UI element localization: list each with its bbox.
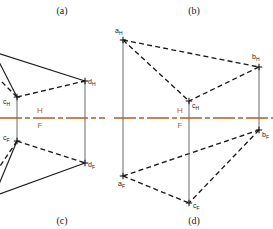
plane-label-f-right: F (178, 121, 183, 130)
figure-left-group: cHdHcFdF (0, 52, 96, 196)
point-label-c_H: cH (192, 102, 200, 111)
point-label-d_H: dH (88, 78, 96, 87)
figure-right-group: aHbHcHaFbFcF (115, 27, 269, 211)
caption-d: (d) (188, 215, 200, 227)
point-marker-right-c_F (186, 200, 192, 206)
edge-bf-cf-dashed (189, 130, 259, 203)
point-label-c_F: cF (193, 202, 200, 211)
point-marker-right-a_F (120, 173, 126, 179)
plane-label-f-left: F (38, 121, 43, 130)
caption-c: (c) (56, 215, 67, 227)
edge-bh-ch-dashed (189, 67, 259, 101)
edge-ch-dh-dashed (17, 81, 85, 97)
plane-label-h-right: H (177, 106, 183, 115)
edge-cf-df-dashed (17, 141, 85, 163)
edge-af-cf-dashed (123, 176, 189, 203)
point-label-c_H: cH (3, 98, 11, 107)
figure-left-solid-edges (0, 52, 85, 196)
point-label-d_F: dF (88, 161, 95, 170)
point-label-c_F: cF (3, 134, 10, 143)
diagram-page: cHdHcFdF aHbHcHaFbFcF H F H F (a)(b)(c)(… (0, 0, 273, 229)
caption-a: (a) (56, 5, 67, 17)
point-label-b_F: bF (262, 131, 269, 140)
edge-bottom-to-cf-solid (0, 141, 17, 196)
point-label-b_H: bH (252, 53, 260, 62)
figure-left-projectors (17, 81, 85, 163)
figure-captions-group: (a)(b)(c)(d) (56, 5, 199, 227)
figure-right-point-markers (120, 37, 262, 206)
figure-right-projectors (123, 40, 259, 203)
figure-right-bottom-triangle-edges (123, 130, 259, 203)
figure-left-point-markers (14, 78, 88, 166)
edge-ah-bh-dashed (123, 40, 259, 67)
edge-af-bf-dashed (123, 130, 259, 176)
h-f-reference-line-group: H F H F (0, 106, 273, 130)
point-label-a_F: aF (118, 180, 125, 189)
orthographic-projection-figure: cHdHcFdF aHbHcHaFbFcF H F H F (a)(b)(c)(… (0, 0, 273, 229)
point-marker-right-b_H (256, 64, 262, 70)
caption-b: (b) (188, 5, 200, 17)
edge-ah-ch-dashed (123, 40, 189, 101)
figure-right-top-triangle-edges (123, 40, 259, 101)
edge-bottom-left-solid (0, 163, 85, 196)
edge-top-left-solid (0, 52, 85, 81)
plane-label-h-left: H (37, 106, 43, 115)
point-label-a_H: aH (115, 27, 123, 36)
